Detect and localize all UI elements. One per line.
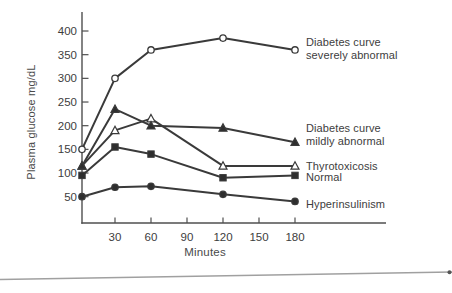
data-point-marker-square-filled-s3 xyxy=(148,151,154,157)
y-tick-label: 400 xyxy=(58,25,77,37)
bottom-rule xyxy=(0,272,452,280)
x-tick-label: 180 xyxy=(285,231,304,243)
data-point-marker-circle-filled-s4 xyxy=(79,194,85,200)
data-point-marker-triangle-filled-s1 xyxy=(111,105,119,112)
data-point-marker-square-filled-s3 xyxy=(112,144,118,150)
data-point-marker-circle-open-s0 xyxy=(112,75,118,81)
data-point-marker-circle-filled-s4 xyxy=(292,198,298,204)
x-tick-label: 30 xyxy=(109,231,122,243)
data-point-marker-square-filled-s3 xyxy=(292,172,298,178)
x-tick-label: 90 xyxy=(181,231,194,243)
data-point-marker-circle-filled-s4 xyxy=(112,184,118,190)
data-point-marker-circle-open-s0 xyxy=(148,47,154,53)
legend-label-diabetes-severely-abnormal: Diabetes curve severely abnormal xyxy=(306,36,398,62)
data-point-marker-circle-open-s0 xyxy=(79,146,85,152)
data-point-marker-square-filled-s3 xyxy=(79,172,85,178)
x-axis-title: Minutes xyxy=(184,246,226,258)
bottom-rule-end-dot xyxy=(448,270,452,274)
y-axis-title: Plasma glucose mg/dL xyxy=(25,64,37,179)
series-line-2 xyxy=(82,119,295,166)
y-tick-label: 200 xyxy=(58,120,77,132)
legend-label-normal: Normal xyxy=(306,171,342,184)
data-point-marker-circle-filled-s4 xyxy=(148,183,154,189)
data-point-marker-circle-open-s0 xyxy=(220,35,226,41)
data-point-marker-circle-open-s0 xyxy=(292,47,298,53)
figure: 50100150200250300350400306090120150180 P… xyxy=(0,0,452,293)
x-tick-label: 120 xyxy=(213,231,232,243)
y-tick-label: 300 xyxy=(58,72,77,84)
data-point-marker-circle-filled-s4 xyxy=(220,191,226,197)
series-line-3 xyxy=(82,147,295,178)
x-tick-label: 60 xyxy=(145,231,158,243)
series-line-1 xyxy=(82,109,295,166)
y-tick-label: 50 xyxy=(64,191,77,203)
y-tick-label: 150 xyxy=(58,143,77,155)
x-tick-label: 150 xyxy=(249,231,268,243)
legend-label-diabetes-mildly-abnormal: Diabetes curve mildly abnormal xyxy=(306,122,385,148)
data-point-marker-square-filled-s3 xyxy=(220,175,226,181)
y-tick-label: 350 xyxy=(58,49,77,61)
y-tick-label: 250 xyxy=(58,96,77,108)
y-tick-label: 100 xyxy=(58,167,77,179)
legend-label-hyperinsulinism: Hyperinsulinism xyxy=(306,198,385,211)
